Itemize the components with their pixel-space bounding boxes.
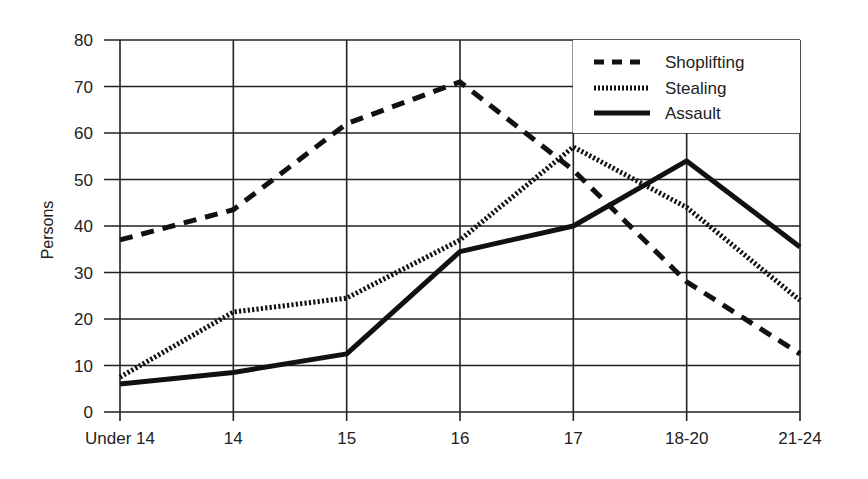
x-tick-label: 14 bbox=[224, 429, 243, 448]
y-tick-label: 20 bbox=[74, 310, 93, 329]
y-tick-label: 40 bbox=[74, 217, 93, 236]
y-tick-label: 80 bbox=[74, 31, 93, 50]
y-axis-label: Persons bbox=[39, 201, 56, 260]
legend: Shoplifting Stealing Assault bbox=[573, 40, 800, 133]
x-tick-label: 17 bbox=[564, 429, 583, 448]
y-tick-label: 10 bbox=[74, 357, 93, 376]
y-tick-label: 70 bbox=[74, 78, 93, 97]
y-tick-label: 30 bbox=[74, 264, 93, 283]
x-tick-label: 18-20 bbox=[665, 429, 708, 448]
x-axis-ticks: Under 141415161718-2021-24 bbox=[85, 429, 822, 448]
legend-label-assault: Assault bbox=[665, 104, 721, 123]
y-tick-label: 60 bbox=[74, 124, 93, 143]
y-axis-ticks: 01020304050607080 bbox=[74, 31, 93, 422]
line-chart: 01020304050607080 Under 141415161718-202… bbox=[0, 0, 868, 479]
y-tick-label: 50 bbox=[74, 171, 93, 190]
legend-label-stealing: Stealing bbox=[665, 79, 726, 98]
x-tick-label: 15 bbox=[337, 429, 356, 448]
x-tick-label: 16 bbox=[451, 429, 470, 448]
x-tick-label: Under 14 bbox=[85, 429, 155, 448]
x-tick-label: 21-24 bbox=[778, 429, 821, 448]
legend-label-shoplifting: Shoplifting bbox=[665, 53, 744, 72]
y-tick-label: 0 bbox=[84, 403, 93, 422]
